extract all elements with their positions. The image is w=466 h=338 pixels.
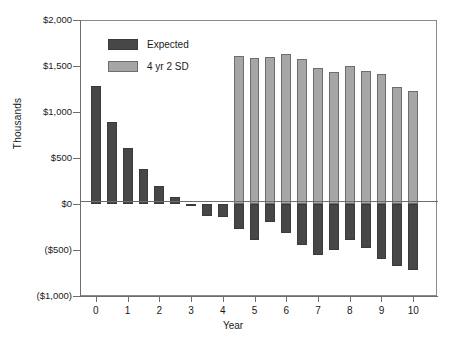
x-tick: [318, 296, 319, 302]
bar-4yr2sd: [361, 71, 371, 204]
bar-4yr2sd: [281, 54, 291, 204]
bar-4yr2sd: [377, 74, 387, 204]
bar-expected: [123, 148, 133, 204]
x-tick-label: 1: [116, 305, 140, 316]
y-tick: [73, 250, 81, 251]
bar-expected: [392, 204, 402, 266]
x-tick: [128, 296, 129, 302]
x-tick: [381, 296, 382, 302]
y-tick-label: $2,000: [10, 15, 72, 25]
legend-label-expected: Expected: [147, 39, 189, 50]
bar-expected: [250, 204, 260, 240]
x-tick-label: 4: [211, 305, 235, 316]
y-tick-label: ($500): [10, 245, 72, 255]
bar-expected: [377, 204, 387, 259]
bar-expected: [408, 204, 418, 270]
bar-expected: [329, 204, 339, 250]
y-tick: [73, 66, 81, 67]
y-tick: [73, 158, 81, 159]
x-tick-label: 5: [243, 305, 267, 316]
bar-4yr2sd: [234, 56, 244, 204]
bar-expected: [297, 204, 307, 245]
bar-4yr2sd: [408, 91, 418, 204]
x-tick-label: 8: [338, 305, 362, 316]
x-tick-label: 9: [369, 305, 393, 316]
bar-expected: [361, 204, 371, 248]
x-tick-label: 10: [401, 305, 425, 316]
light-gray-swatch-icon: [108, 61, 138, 72]
y-tick: [73, 296, 81, 297]
y-axis-title: Thousands: [12, 69, 23, 179]
bar-4yr2sd: [313, 68, 323, 204]
x-tick: [159, 296, 160, 302]
legend-label-4yr2sd: 4 yr 2 SD: [147, 61, 189, 72]
bar-expected: [313, 204, 323, 255]
x-tick: [191, 296, 192, 302]
bar-4yr2sd: [345, 66, 355, 204]
x-tick: [350, 296, 351, 302]
bar-4yr2sd: [329, 72, 339, 204]
bar-expected: [202, 204, 212, 216]
bar-expected: [139, 169, 149, 204]
x-tick: [96, 296, 97, 302]
x-tick-label: 2: [147, 305, 171, 316]
legend-item-4yr2sd: 4 yr 2 SD: [108, 58, 189, 74]
y-tick-label: $0: [10, 199, 72, 209]
bar-expected: [107, 122, 117, 204]
bar-expected: [265, 204, 275, 222]
bar-expected: [218, 204, 228, 217]
bar-4yr2sd: [297, 59, 307, 204]
bar-expected: [234, 204, 244, 229]
x-tick: [255, 296, 256, 302]
bar-4yr2sd: [265, 57, 275, 204]
bar-expected: [91, 86, 101, 204]
bar-chart: $2,000$1,500$1,000$500$0($500)($1,000) T…: [0, 0, 466, 338]
x-tick-label: 6: [274, 305, 298, 316]
y-tick-label: ($1,000): [10, 291, 72, 301]
x-tick-label: 3: [179, 305, 203, 316]
chart-legend: Expected 4 yr 2 SD: [108, 36, 189, 80]
zero-baseline: [80, 201, 438, 202]
bar-expected: [186, 204, 196, 206]
x-axis-line: [80, 296, 438, 297]
y-tick: [73, 112, 81, 113]
x-tick-label: 0: [84, 305, 108, 316]
dark-gray-swatch-icon: [108, 39, 138, 50]
y-tick: [73, 20, 81, 21]
bar-4yr2sd: [250, 58, 260, 204]
legend-item-expected: Expected: [108, 36, 189, 52]
x-tick: [286, 296, 287, 302]
x-tick: [413, 296, 414, 302]
bar-expected: [345, 204, 355, 240]
x-axis-title: Year: [0, 320, 466, 331]
bar-4yr2sd: [392, 87, 402, 204]
y-tick: [73, 204, 81, 205]
bar-expected: [281, 204, 291, 233]
x-tick: [223, 296, 224, 302]
x-tick-label: 7: [306, 305, 330, 316]
